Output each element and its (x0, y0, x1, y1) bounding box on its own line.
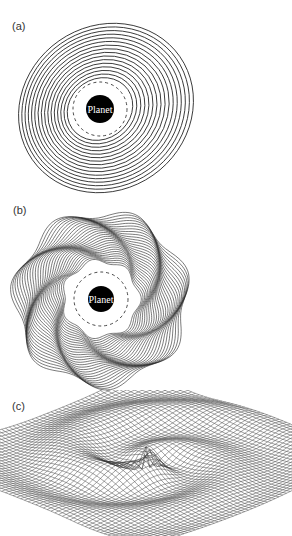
planet-b-label: Planet (89, 294, 114, 305)
panel-a-ellipses-diagram: Planet (0, 0, 292, 200)
panel-c-surface-plot (0, 390, 292, 536)
panel-b-polygon-diagram: Planet (0, 195, 292, 395)
planet-a-label: Planet (88, 104, 113, 115)
